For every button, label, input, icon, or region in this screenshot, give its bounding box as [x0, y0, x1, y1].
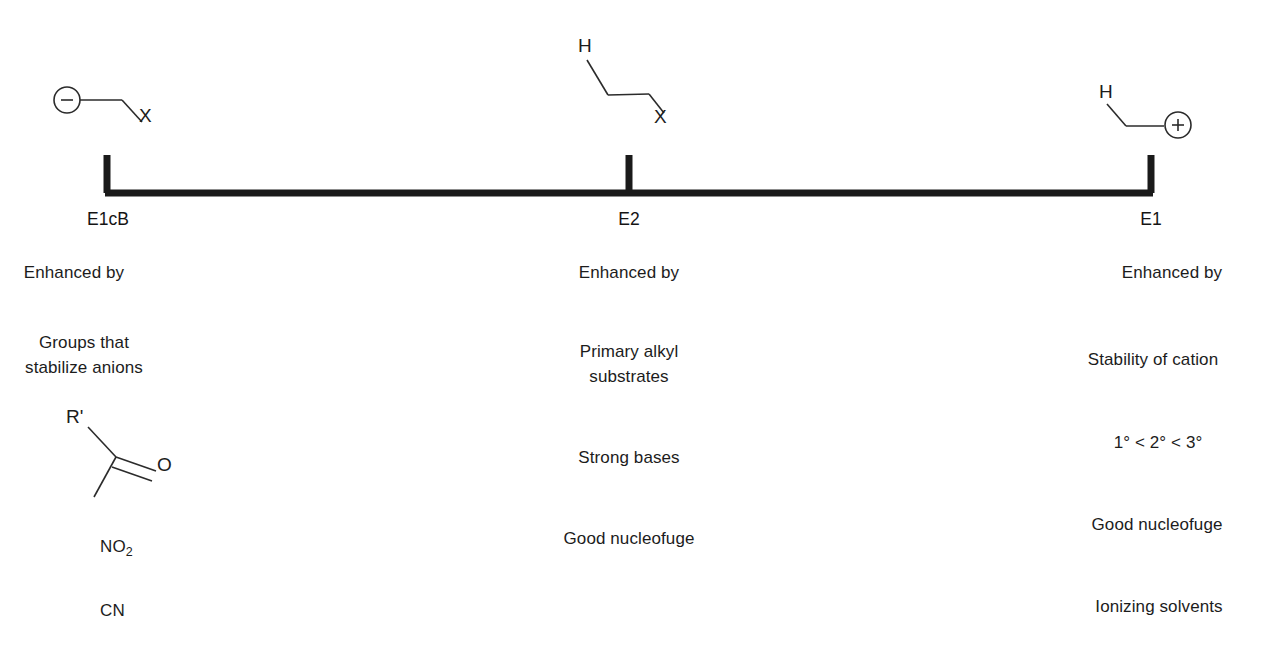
e2-enhanced-by-text: Enhanced by	[579, 261, 679, 285]
axis-label-e1: E1	[1140, 209, 1161, 230]
e1-good-nucleofuge-text: Good nucleofuge	[1092, 513, 1223, 537]
structure-carbonyl	[80, 425, 210, 510]
e2-primary-line1: Primary alkyl	[580, 340, 679, 364]
e1cb-enhanced-by-text: Enhanced by	[24, 261, 124, 285]
e2-primary-line2: substrates	[589, 365, 668, 389]
e1cb-formula-no2: NO2	[100, 535, 133, 564]
e2-strong-bases-text: Strong bases	[578, 446, 679, 470]
axis-label-e1cb: E1cB	[87, 209, 129, 230]
carbonyl-double-bond-lower	[112, 467, 152, 481]
axis-label-e2: E2	[618, 209, 639, 230]
atom-label-oxygen: O	[157, 453, 172, 477]
mechanism-spectrum-axis	[0, 0, 1277, 234]
e1-enhanced-by-text: Enhanced by	[1122, 261, 1222, 285]
elimination-spectrum-diagram: X H X H E1cB E2 E1 Enhanced by Gro	[0, 0, 1277, 662]
e1cb-formula-cn: CN	[100, 599, 125, 623]
no2-base: NO	[100, 537, 126, 556]
e1-ionizing-solvents-text: Ionizing solvents	[1095, 595, 1222, 619]
no2-subscript: 2	[126, 545, 133, 559]
e2-good-nucleofuge-text: Good nucleofuge	[564, 527, 695, 551]
carbonyl-double-bond-upper	[116, 457, 156, 471]
bond-r-prime-to-carbonyl-c	[88, 427, 116, 457]
e1-degree-series-text: 1° < 2° < 3°	[1114, 431, 1203, 455]
e1-stability-of-cation-text: Stability of cation	[1088, 348, 1218, 372]
e1cb-groups-line1: Groups that	[39, 331, 129, 355]
e1cb-groups-line2: stabilize anions	[25, 356, 143, 380]
bond-carbonyl-c-to-methyl	[94, 457, 116, 497]
